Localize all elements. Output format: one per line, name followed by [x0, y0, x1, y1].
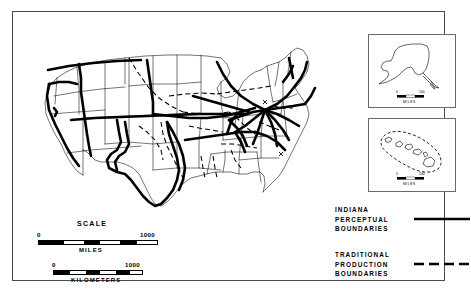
miles-scale-bar	[38, 240, 158, 245]
hawaii-scale-max: 200	[419, 172, 425, 176]
alaska-scale-unit: MILES	[403, 100, 416, 104]
kilometers-scale-bar	[53, 270, 143, 275]
legend-traditional-sample-line	[413, 258, 471, 270]
legend-perceptual-line2: PERCEPTUAL	[335, 215, 411, 225]
us-map	[21, 22, 361, 222]
alaska-scale-min: 0	[396, 90, 398, 94]
hawaii-scale-unit: MILES	[403, 182, 416, 186]
legend-traditional-line2: PRODUCTION	[335, 260, 411, 270]
legend-traditional-line3: BOUNDARIES	[335, 269, 411, 279]
legend-perceptual-text: INDIANA PERCEPTUAL BOUNDARIES	[335, 205, 411, 234]
miles-scale-unit: MILES	[79, 247, 103, 253]
legend-traditional-line1: TRADITIONAL	[335, 250, 411, 260]
legend-perceptual-line3: BOUNDARIES	[335, 224, 411, 234]
hawaii-scale-min: 0	[396, 172, 398, 176]
kilometers-scale-max: 1000	[125, 261, 140, 268]
legend-item-perceptual: INDIANA PERCEPTUAL BOUNDARIES	[335, 205, 471, 234]
kilometers-scale-unit: KILOMETERS	[71, 277, 121, 283]
alaska-scale-bar: 0 500 MILES	[396, 90, 425, 104]
miles-scale-max: 1000	[140, 231, 155, 238]
miles-scale-min: 0	[37, 231, 41, 238]
legend-perceptual-line1: INDIANA	[335, 205, 411, 215]
scale-bars: SCALE 0 1000 MILES 0 1000 KILOMETERS	[37, 220, 167, 290]
map-frame: 0 500 MILES	[12, 11, 445, 281]
legend-perceptual-sample-line	[413, 213, 471, 225]
scale-title: SCALE	[77, 220, 107, 227]
legend-item-traditional: TRADITIONAL PRODUCTION BOUNDARIES	[335, 250, 471, 279]
alaska-outline: 0 500 MILES	[369, 35, 455, 107]
inset-alaska: 0 500 MILES	[368, 34, 456, 108]
hawaii-scale-bar: 0 200 MILES	[396, 172, 425, 186]
hawaii-outline: 0 200 MILES	[369, 119, 455, 191]
alaska-scale-max: 500	[419, 90, 425, 94]
kilometers-scale-min: 0	[52, 261, 56, 268]
indiana-perceptual-lines	[47, 58, 315, 206]
legend-traditional-text: TRADITIONAL PRODUCTION BOUNDARIES	[335, 250, 411, 279]
inset-hawaii: 0 200 MILES	[368, 118, 456, 192]
